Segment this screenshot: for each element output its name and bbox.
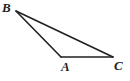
- geometry-figure: B A C: [0, 0, 130, 81]
- segment-b-to-c: [16, 11, 113, 57]
- vertex-label-a: A: [61, 60, 70, 73]
- vertex-label-c: C: [114, 59, 123, 72]
- segment-b-to-a: [16, 11, 61, 57]
- vertex-label-b: B: [2, 1, 11, 14]
